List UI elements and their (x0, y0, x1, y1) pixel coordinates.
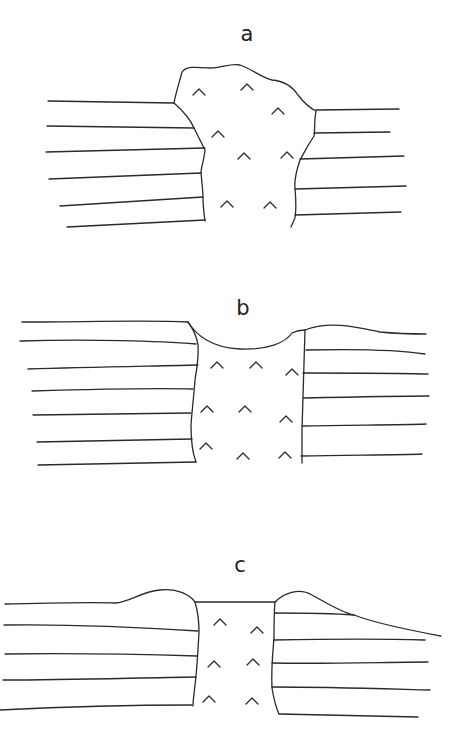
intrusion-symbol (238, 153, 250, 159)
panel-c: c (0, 550, 459, 743)
panel-label-a: a (241, 22, 254, 46)
intrusion-symbol (221, 201, 233, 207)
panel-label-c: c (234, 553, 246, 577)
intrusion-symbol (279, 452, 291, 458)
intrusion-symbol (241, 84, 253, 90)
panel-label-b: b (236, 296, 249, 320)
intrusion-symbol (251, 627, 263, 633)
intrusion-symbol (239, 406, 251, 412)
intrusion-symbol (200, 443, 212, 449)
intrusion-symbol (281, 152, 293, 158)
intrusion-symbol (214, 619, 226, 625)
panel-b-drawing (0, 280, 459, 480)
panel-a-drawing (0, 0, 459, 250)
intrusion-symbol (280, 416, 292, 422)
intrusion-symbol (286, 369, 298, 375)
intrusion-symbol (247, 659, 259, 665)
intrusion-symbol (250, 362, 262, 368)
panel-c-drawing (0, 550, 459, 743)
intrusion-symbol (201, 406, 213, 412)
intrusion-symbol (203, 696, 215, 702)
intrusion-symbol (272, 108, 284, 114)
intrusion-symbol (208, 661, 220, 667)
panel-b: b (0, 280, 459, 480)
intrusion-symbol (211, 362, 223, 368)
intrusion-symbol (237, 453, 249, 459)
intrusion-symbol (212, 131, 224, 137)
intrusion-symbol (246, 698, 258, 704)
intrusion-symbol (264, 202, 276, 208)
intrusion-symbol (193, 89, 205, 95)
panel-a: a (0, 0, 459, 250)
